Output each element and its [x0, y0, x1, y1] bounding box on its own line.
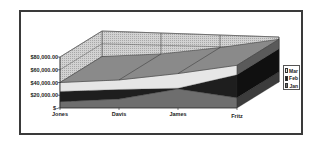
x-tick-label: Jones [52, 111, 68, 117]
legend-label: Jan [289, 83, 298, 89]
y-tick-label: $20,000.00 [20, 92, 58, 98]
legend-item-feb: Feb [285, 75, 298, 83]
legend-swatch [285, 76, 288, 81]
chart-legend: Mar Feb Jan [283, 65, 300, 90]
x-tick-label: Fritz [231, 113, 243, 119]
legend-label: Feb [289, 75, 298, 81]
x-tick-label: James [169, 111, 186, 117]
y-tick-label: $60,000.00 [20, 67, 58, 73]
legend-item-jan: Jan [285, 82, 298, 90]
x-tick-label: Davis [112, 111, 127, 117]
legend-label: Mar [289, 68, 298, 74]
legend-swatch [285, 68, 288, 73]
y-tick-label: $80,000.00 [20, 54, 58, 60]
y-tick-label: $40,000.00 [20, 80, 58, 86]
legend-swatch [285, 83, 288, 88]
legend-item-mar: Mar [285, 67, 298, 75]
